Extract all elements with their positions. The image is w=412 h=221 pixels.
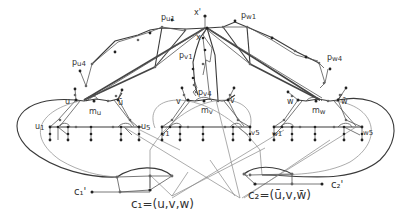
label-p-w4: pw4 (327, 53, 343, 63)
node-c2 (253, 182, 256, 185)
node-x (205, 26, 208, 29)
label-x: x (196, 33, 201, 42)
clause-gadget-c1 (92, 168, 172, 192)
label-v1: v1 (161, 130, 170, 138)
node-c1-prime (91, 191, 94, 194)
nodes (49, 14, 364, 193)
label-v: v (176, 97, 181, 106)
node-x-prime (203, 14, 206, 17)
label-p-v4: pv4 (198, 88, 212, 98)
label-c1-definition: c₁=(u,v,w) (131, 197, 194, 211)
label-w5: w5 (363, 129, 373, 137)
label-w: w (287, 97, 294, 106)
label-m-w: mw (312, 106, 326, 116)
label-c2-definition: c₂=(ū,v,w̄) (248, 188, 311, 202)
label-m-v: mv (201, 106, 213, 116)
label-c2-prime: c₂' (331, 179, 343, 190)
label-u: u (65, 97, 70, 106)
node-c1 (148, 188, 151, 191)
label-v-bar: v̄ (230, 96, 235, 105)
label-m-u: mu (89, 107, 101, 117)
label-p-u1: pu1 (161, 13, 175, 23)
reduction-diagram: x' x pu1 pu4 pw1 pw4 pv1 pv4 u ū mu u1 u… (0, 0, 412, 221)
label-x-prime: x' (194, 8, 201, 17)
label-v5: v5 (251, 129, 260, 137)
label-p-u4: pu4 (72, 58, 87, 68)
label-c1-prime: c₁' (74, 186, 86, 197)
label-p-w1: pw1 (241, 11, 256, 21)
label-w-bar: w̄ (341, 97, 348, 106)
label-u-bar: ū (118, 98, 123, 107)
node-c2-prime (321, 183, 324, 186)
label-u1: u1 (35, 122, 45, 132)
label-u5: u5 (141, 122, 151, 132)
label-w1: w1 (272, 130, 282, 138)
hub-structure (80, 16, 328, 101)
label-p-v1: pv1 (179, 51, 193, 61)
